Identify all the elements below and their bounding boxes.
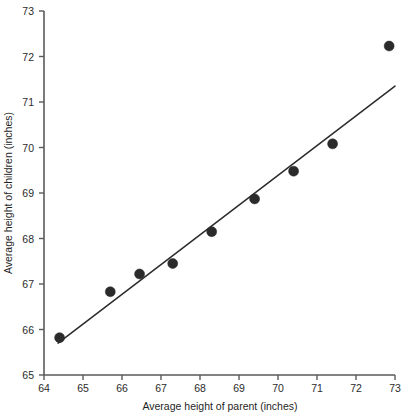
y-tick-label-70: 70 [22,142,34,154]
axis-spines [44,11,395,375]
data-point-4 [207,227,217,237]
regression-line [58,86,395,343]
scatter-chart: 64656667686970717273 656667686970717273 … [0,0,410,416]
y-tick-label-69: 69 [22,187,34,199]
data-points [55,41,395,343]
x-axis-title: Average height of parent (inches) [142,400,297,412]
x-tick-label-72: 72 [350,382,362,394]
x-tick-label-64: 64 [38,382,50,394]
data-point-5 [250,194,260,204]
plot-area: 64656667686970717273 656667686970717273 … [0,0,410,416]
x-tick-label-67: 67 [155,382,167,394]
x-tick-label-65: 65 [77,382,89,394]
data-point-6 [289,166,299,176]
y-tick-label-72: 72 [22,51,34,63]
x-tick-label-71: 71 [311,382,323,394]
x-tick-label-70: 70 [272,382,284,394]
regression-line-path [58,86,395,343]
y-tick-label-66: 66 [22,324,34,336]
data-point-1 [105,287,115,297]
x-tick-label-69: 69 [233,382,245,394]
x-axis-tick-labels: 64656667686970717273 [38,382,401,394]
data-point-3 [168,259,178,269]
data-point-7 [328,139,338,149]
y-tick-label-65: 65 [22,369,34,381]
y-axis-title: Average height of children (inches) [2,112,14,274]
y-axis-tick-labels: 656667686970717273 [22,5,34,381]
y-tick-label-71: 71 [22,96,34,108]
y-tick-label-73: 73 [22,5,34,17]
y-tick-label-67: 67 [22,278,34,290]
x-tick-label-68: 68 [194,382,206,394]
y-tick-label-68: 68 [22,233,34,245]
data-point-0 [55,333,65,343]
data-point-8 [384,41,394,51]
data-point-2 [135,269,145,279]
x-tick-label-66: 66 [116,382,128,394]
x-tick-label-73: 73 [389,382,401,394]
